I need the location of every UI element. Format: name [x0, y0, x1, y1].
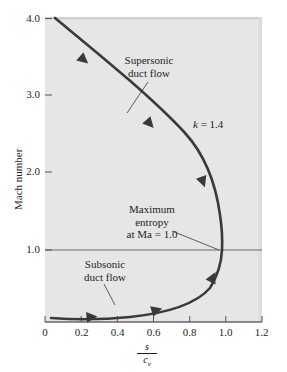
annotation-subsonic-line2: duct flow	[60, 271, 150, 284]
y-tick-label-1: 1.0	[18, 243, 40, 255]
plot-top-edge	[45, 17, 262, 20]
x-tick-label-0.4: 0.4	[105, 326, 130, 338]
y-tick-label-3: 3.0	[18, 88, 40, 100]
annotation-supersonic: Supersonic duct flow	[104, 54, 194, 79]
plot-right-edge	[259, 17, 263, 322]
x-tick-label-0.2: 0.2	[69, 326, 94, 338]
x-tick-label-1.0: 1.0	[213, 326, 238, 338]
x-axis-label-numerator: s	[137, 342, 157, 352]
annotation-k-value: k = 1.4	[193, 118, 253, 131]
x-tick-label-0: 0	[35, 326, 55, 338]
annotation-supersonic-line1: Supersonic	[104, 54, 194, 67]
y-tick-label-4: 4.0	[18, 12, 40, 24]
annotation-max-entropy-line2: entropy	[107, 216, 197, 229]
k-value-text: = 1.4	[198, 118, 223, 130]
annotation-maximum-entropy: Maximum entropy at Ma = 1.0	[107, 203, 197, 241]
annotation-subsonic-line1: Subsonic	[60, 258, 150, 271]
x-tick-label-1.2: 1.2	[249, 326, 274, 338]
y-axis-label: Mach number	[12, 149, 24, 210]
x-axis-label: s cv	[137, 342, 157, 368]
annotation-supersonic-line2: duct flow	[104, 67, 194, 80]
denominator-subscript: v	[148, 360, 151, 368]
annotation-subsonic: Subsonic duct flow	[60, 258, 150, 283]
x-axis-label-denominator: cv	[137, 355, 157, 368]
x-tick-label-0.8: 0.8	[177, 326, 202, 338]
annotation-max-entropy-line3: at Ma = 1.0	[107, 228, 197, 241]
x-tick-label-0.6: 0.6	[141, 326, 166, 338]
annotation-max-entropy-line1: Maximum	[107, 203, 197, 216]
